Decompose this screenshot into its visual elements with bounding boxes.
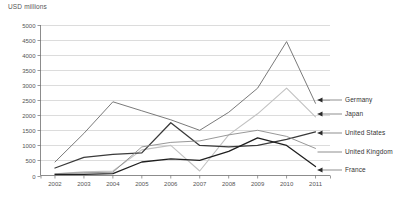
legend-label-germany: Germany [345, 96, 373, 104]
y-tick-label: 4000 [22, 53, 36, 59]
series-line-united-kingdom [55, 130, 316, 173]
x-tick-label: 2002 [48, 181, 62, 187]
x-tick-label: 2006 [164, 181, 178, 187]
series-line-japan [55, 88, 316, 174]
x-tick-label: 2003 [77, 181, 91, 187]
series-group [55, 42, 316, 175]
y-tick-label: 0 [32, 174, 36, 180]
y-tick-label: 3500 [22, 68, 36, 74]
y-tick-label: 500 [25, 158, 36, 164]
x-tick-labels-group: 2002200320042005200620072008200920102011 [41, 176, 331, 187]
y-tick-label: 2000 [22, 113, 36, 119]
line-chart-plot: 0500100015002000250030003500400045005000… [0, 0, 396, 198]
legend-label-japan: Japan [345, 110, 363, 118]
x-tick-label: 2009 [251, 181, 265, 187]
legend-arrow-icon [318, 168, 323, 173]
legend-arrow-icon [318, 131, 323, 136]
gridlines-group [38, 26, 331, 177]
legend-label-france: France [345, 166, 366, 173]
legend-label-united-states: United States [345, 129, 386, 136]
legend-label-united-kingdom: United Kingdom [345, 148, 393, 156]
y-tick-label: 2500 [22, 98, 36, 104]
x-tick-label: 2008 [222, 181, 236, 187]
y-tick-label: 5000 [22, 23, 36, 29]
legend-group: GermanyJapanUnited StatesUnited KingdomF… [318, 96, 393, 173]
x-tick-label: 2004 [106, 181, 120, 187]
y-tick-label: 1500 [22, 128, 36, 134]
x-tick-label: 2005 [135, 181, 149, 187]
chart-container: USD millions 050010001500200025003000350… [0, 0, 396, 198]
x-tick-label: 2010 [280, 181, 294, 187]
x-tick-label: 2007 [193, 181, 207, 187]
y-tick-label: 1000 [22, 143, 36, 149]
y-tick-label: 3000 [22, 83, 36, 89]
series-line-germany [55, 42, 316, 162]
y-tick-label: 4500 [22, 38, 36, 44]
legend-arrow-icon [318, 98, 323, 103]
y-tick-labels-group: 0500100015002000250030003500400045005000 [22, 23, 36, 180]
x-tick-label: 2011 [309, 181, 323, 187]
